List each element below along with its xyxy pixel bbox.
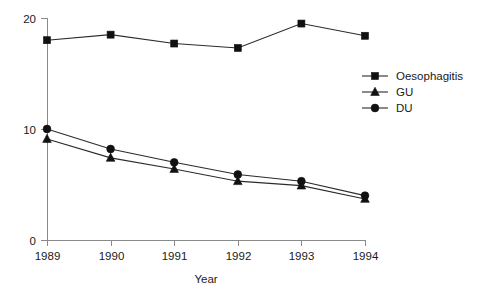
- x-axis-tick-label: 1994: [353, 250, 379, 262]
- circle-marker-icon: [170, 158, 178, 166]
- square-marker-icon: [234, 44, 241, 51]
- x-axis-title: Year: [194, 273, 217, 285]
- square-marker-icon: [171, 40, 178, 47]
- legend-group: OesophagitisGUDU: [362, 70, 463, 114]
- x-axis-tick-label: 1991: [162, 250, 188, 262]
- triangle-marker-icon: [371, 87, 380, 95]
- circle-marker-icon: [43, 125, 51, 133]
- legend-item-gu: GU: [362, 86, 413, 98]
- y-axis-tick-label: 0: [30, 235, 36, 247]
- series-oesophagitis: [44, 20, 369, 51]
- x-axis-tick-label: 1992: [226, 250, 252, 262]
- legend-label: DU: [396, 102, 413, 114]
- x-axis-tick-label: 1989: [35, 250, 61, 262]
- y-axis-tick-label: 10: [23, 124, 36, 136]
- x-axis-tick-label: 1990: [99, 250, 125, 262]
- axis-labels-group: Year: [194, 273, 217, 285]
- square-marker-icon: [107, 31, 114, 38]
- legend-item-oesophagitis: Oesophagitis: [362, 70, 463, 82]
- series-line: [47, 24, 365, 48]
- x-axis-tick-label: 1993: [289, 250, 315, 262]
- line-chart: 01020198919901991199219931994 Oesophagit…: [0, 0, 490, 296]
- square-marker-icon: [298, 20, 305, 27]
- square-marker-icon: [372, 73, 379, 80]
- series-line: [47, 129, 365, 196]
- axes-group: 01020198919901991199219931994: [23, 13, 379, 263]
- circle-marker-icon: [107, 145, 115, 153]
- legend-label: Oesophagitis: [396, 70, 463, 82]
- square-marker-icon: [44, 37, 51, 44]
- circle-marker-icon: [234, 171, 242, 179]
- circle-marker-icon: [361, 192, 369, 200]
- circle-marker-icon: [298, 177, 306, 185]
- series-group: [43, 20, 370, 202]
- circle-marker-icon: [371, 104, 379, 112]
- series-du: [43, 125, 369, 199]
- chart-canvas: 01020198919901991199219931994 Oesophagit…: [0, 0, 490, 296]
- legend-label: GU: [396, 86, 413, 98]
- legend-item-du: DU: [362, 102, 413, 114]
- triangle-marker-icon: [43, 134, 52, 142]
- y-axis-tick-label: 20: [23, 13, 36, 25]
- square-marker-icon: [362, 32, 369, 39]
